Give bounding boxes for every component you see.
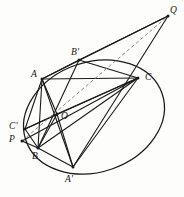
point-label-C: C [145,73,152,83]
point-marker-B [37,147,40,150]
point-label-Ap: A' [65,175,73,185]
point-label-Q: Q [170,6,177,16]
segment-C-Ap [73,78,138,167]
point-label-B: B [32,152,38,162]
point-marker-A [41,78,44,81]
solid-lines-layer [22,16,168,167]
point-marker-Bp [78,59,81,62]
point-label-A: A [31,70,37,80]
point-marker-P [21,140,24,143]
point-markers-layer [21,15,170,169]
segment-A-Ap [42,79,73,167]
segment-Bp-C [79,60,138,78]
geometry-figure: QB'ACOC'PBA' [0,0,184,197]
point-marker-Ap [72,166,75,169]
point-label-Cp: C' [9,122,18,132]
point-label-Bp: B' [71,48,79,58]
segment-A-C [42,78,138,79]
segment-Ap-Q [73,16,168,167]
point-marker-Cp [24,128,27,131]
point-label-P: P [9,135,15,145]
point-label-O: O [61,112,68,122]
point-marker-C [137,77,140,80]
point-marker-O [56,113,59,116]
geometry-canvas [0,0,184,197]
